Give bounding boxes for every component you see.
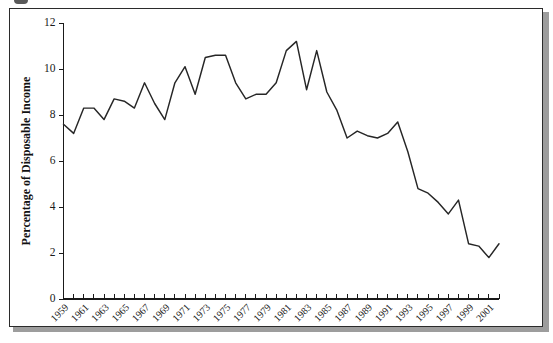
x-tick-label: 1979 [251,302,273,324]
y-tick-label: 2 [50,246,56,258]
x-tick-label: 1967 [130,302,152,324]
x-tick-label: 1995 [413,302,435,324]
x-tick-label: 1981 [271,302,293,324]
line-chart: Percentage of Disposable Income 19591961… [10,9,544,328]
x-tick-label: 1959 [48,302,70,324]
series-polyline [64,41,500,257]
y-tick-label: 4 [50,200,56,212]
x-tick-label: 1961 [69,302,91,324]
page-artifact-nub [14,0,28,4]
y-axis [59,23,64,299]
x-axis [64,294,500,299]
data-series-line [64,41,500,257]
x-tick-label: 2001 [474,302,496,324]
x-tick-label: 1987 [332,302,354,324]
y-axis-title: Percentage of Disposable Income [19,76,33,245]
x-tick-labels: 1959196119631965196719691971197319751977… [48,302,495,324]
x-tick-label: 1965 [109,302,131,324]
x-tick-label: 1985 [312,302,334,324]
y-tick-label: 10 [44,62,56,74]
x-tick-label: 1973 [190,302,212,324]
x-tick-label: 1963 [89,302,111,324]
figure-panel: Percentage of Disposable Income 19591961… [9,8,543,327]
x-tick-label: 1997 [433,302,455,324]
x-tick-label: 1975 [211,302,233,324]
y-tick-label: 8 [50,108,56,120]
y-tick-labels: 024681012 [44,16,56,304]
chart-page: Percentage of Disposable Income 19591961… [0,0,553,343]
y-tick-label: 12 [44,16,56,28]
x-tick-label: 1971 [170,302,192,324]
x-tick-label: 1969 [150,302,172,324]
y-axis-title-text: Percentage of Disposable Income [19,76,33,245]
y-tick-label: 0 [50,292,56,304]
x-tick-label: 1991 [373,302,395,324]
x-tick-label: 1977 [231,302,253,324]
x-tick-label: 1993 [393,302,415,324]
y-tick-label: 6 [50,154,56,166]
x-tick-label: 1983 [292,302,314,324]
x-tick-label: 1989 [352,302,374,324]
x-tick-label: 1999 [454,302,476,324]
